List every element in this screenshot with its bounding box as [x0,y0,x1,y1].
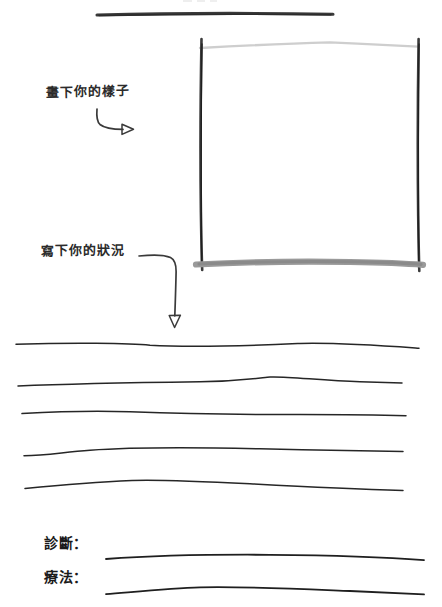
worksheet-page: 畫下你的樣子 寫下你的狀況 診斷： 療法： [0,0,442,607]
top-divider-rule [97,14,333,16]
cropped-title-remnant [183,0,217,2]
arrow-to-writing-lines [139,255,180,327]
condition-writing-area[interactable] [16,336,426,496]
arrow-to-portrait-box [97,109,134,134]
diagnosis-input-area[interactable] [104,536,426,560]
therapy-label: 療法： [44,566,88,586]
portrait-instruction-label: 畫下你的樣子 [46,80,130,101]
condition-instruction-label: 寫下你的狀況 [41,239,125,259]
portrait-drawing-area[interactable] [200,40,418,262]
therapy-input-area[interactable] [104,571,426,595]
diagnosis-label: 診斷： [44,532,88,552]
